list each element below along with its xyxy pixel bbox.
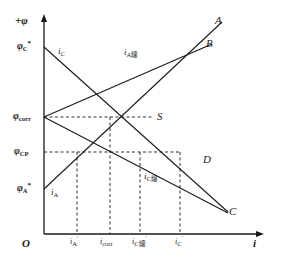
tick-label-i-corr: icorr [100,238,113,246]
cathodic-line-iC [44,47,228,212]
curve-label-i-a: iA [51,188,58,197]
x-axis-label: i [253,238,256,249]
curve-label-i-c: iC [58,47,65,56]
evans-diagram-canvas [0,0,284,261]
y-axis-label: +φ [15,15,28,26]
tick-label-phi-corr: φcorr [13,111,31,121]
curve-label-i-c-tot: iC總 [144,172,158,181]
tick-label-phi-cp: φCP [14,146,29,156]
curve-label-i-a-tot: iA總 [124,48,138,57]
tick-label-i-c-tot-prime: iC總′ [132,238,147,246]
tick-label-i-c-prime: iC′ [175,238,183,246]
tick-label-phi-a-star: φA* [17,183,31,193]
point-label-d: D [203,154,211,165]
tick-label-phi-c-star: φC* [17,41,31,51]
tick-label-i-a-prime: iA′ [70,238,78,246]
total-cathodic-line-iCtot [44,117,228,213]
x-axis-arrow [256,231,264,237]
y-axis-arrow [41,14,47,22]
point-label-a: A [215,15,222,26]
point-label-b: B [206,38,213,49]
point-label-s: S [157,111,163,122]
point-label-c: C [229,206,236,217]
origin-label: O [22,238,30,249]
